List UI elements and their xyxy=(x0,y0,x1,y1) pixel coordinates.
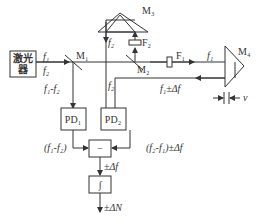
label-f1-beam: f₁ xyxy=(207,50,213,61)
label-m4: M₄ xyxy=(238,46,251,57)
label-f2-laser: f₂ xyxy=(43,65,50,76)
f1-filter xyxy=(167,57,172,67)
f2-filter xyxy=(129,40,141,45)
pd2-label: PD₂ xyxy=(105,114,121,125)
label-m1: M₁ xyxy=(76,50,88,61)
label-f1-filter: F₁ xyxy=(176,50,185,61)
label-pd1-output: (f₁-f₂) xyxy=(44,142,67,154)
pd1-label: PD₁ xyxy=(65,114,81,125)
interferometer-diagram: 激光 器 PD₁ PD₂ − ∫ f₁ f₂ M₁ f₁-f₂ f₂ f₂ M₃… xyxy=(0,0,257,224)
label-f2-filter: F₂ xyxy=(142,37,151,48)
label-f2-m2: f₂ xyxy=(108,80,115,91)
label-m2: M₂ xyxy=(137,64,149,75)
label-pd2-output: (f₂-f₁)±Δf xyxy=(146,142,184,154)
label-delta-f: ±Δf xyxy=(104,161,119,172)
label-return-beam: f₁±Δf xyxy=(160,83,182,94)
label-velocity: v xyxy=(243,92,248,103)
subtractor-label: − xyxy=(97,143,103,154)
laser-label-2: 器 xyxy=(17,64,29,75)
laser-label-1: 激光 xyxy=(13,52,33,64)
label-f2-m3: f₂ xyxy=(108,37,115,48)
label-f1-laser: f₁ xyxy=(43,51,49,62)
label-m3: M₃ xyxy=(142,5,154,16)
label-delta-n: ±ΔN xyxy=(104,202,123,213)
label-f1-minus-f2: f₁-f₂ xyxy=(44,83,60,94)
m3-prism xyxy=(106,15,135,32)
